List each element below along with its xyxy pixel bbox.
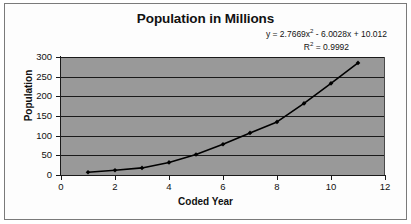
gridline-y [61,155,384,156]
x-tick-label: 4 [157,182,181,192]
trendline-equation: y = 2.7669x2 - 6.0028x + 10.012 [266,28,387,40]
y-tick-label: 250 [36,72,52,82]
x-axis-label: Coded Year [0,196,411,207]
gridline-y [61,136,384,137]
r2-suffix: = 0.9992 [313,42,349,52]
y-tick-mark [56,155,60,156]
trendline-r-squared: R2 = 0.9992 [266,41,387,53]
x-tick-label: 0 [49,182,73,192]
trendline-annotation: y = 2.7669x2 - 6.0028x + 10.012 R2 = 0.9… [266,28,387,53]
y-tick-mark [56,175,60,176]
y-tick-mark [56,96,60,97]
y-tick-label: 150 [36,111,52,121]
y-axis-line [60,56,61,176]
x-tick-label: 6 [211,182,235,192]
x-tick-mark [169,176,170,180]
x-tick-mark [223,176,224,180]
gridline-y [61,57,384,58]
gridline-y [61,77,384,78]
y-axis-label: Population [23,51,34,141]
gridline-y [61,96,384,97]
equation-suffix: - 6.0028x + 10.012 [314,29,388,39]
x-tick-mark [61,176,62,180]
chart-figure: Population in Millions y = 2.7669x2 - 6.… [0,0,411,224]
gridline-y [61,116,384,117]
y-tick-label: 300 [36,52,52,62]
y-tick-mark [56,57,60,58]
x-tick-label: 12 [373,182,397,192]
x-tick-label: 10 [319,182,343,192]
y-tick-label: 50 [41,150,52,160]
x-tick-label: 2 [103,182,127,192]
y-tick-mark [56,116,60,117]
y-tick-mark [56,136,60,137]
x-tick-mark [385,176,386,180]
equation-prefix: y = 2.7669x [266,29,310,39]
y-tick-mark [56,77,60,78]
y-tick-label: 100 [36,131,52,141]
plot-area [61,57,385,175]
y-tick-label: 0 [47,170,52,180]
x-tick-mark [331,176,332,180]
x-tick-mark [277,176,278,180]
x-tick-mark [115,176,116,180]
x-tick-label: 8 [265,182,289,192]
chart-title: Population in Millions [0,11,411,26]
y-tick-label: 200 [36,91,52,101]
